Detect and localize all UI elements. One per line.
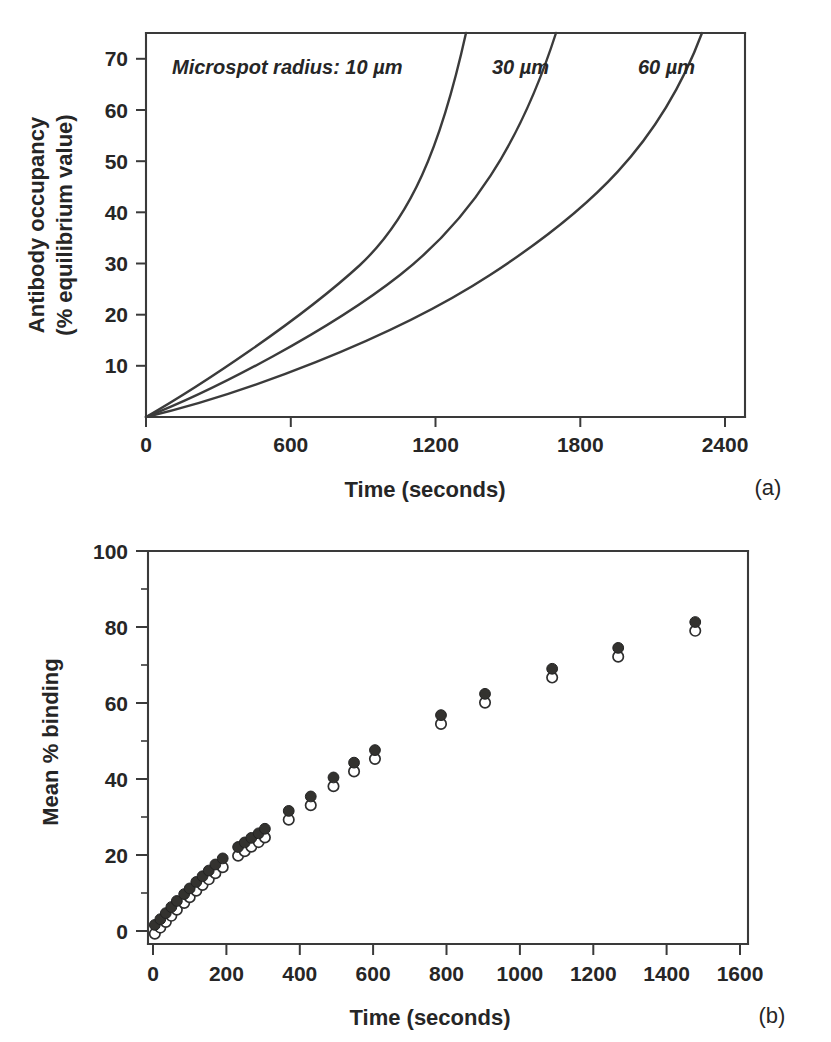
y-ticklabel-30: 30: [105, 252, 128, 275]
panel-a-y-ticklabels: 10 20 30 40 50 60 70: [105, 47, 128, 377]
panel-a-tag: (a): [755, 475, 782, 500]
figure-container: 10 20 30 40 50 60 70 0 600 1200 1800: [0, 0, 831, 1042]
x-ticklabel-1200: 1200: [570, 962, 617, 985]
panel-b-svg: 100 80 60 40 20 0 0 200: [0, 520, 831, 1042]
x-ticklabel-1000: 1000: [497, 962, 544, 985]
panel-b-axes: [148, 551, 748, 944]
x-ticklabel-1400: 1400: [643, 962, 690, 985]
curve-30um: [146, 33, 556, 417]
y-ticklabel-50: 50: [105, 150, 128, 173]
data-point-filled: [370, 745, 381, 756]
y-ticklabel-60: 60: [105, 692, 128, 715]
curve-60um: [146, 33, 702, 417]
panel-a: 10 20 30 40 50 60 70 0 600 1200 1800: [0, 0, 831, 520]
panel-a-x-ticklabels: 0 600 1200 1800 2400: [140, 433, 748, 456]
y-ticklabel-40: 40: [105, 768, 128, 791]
x-ticklabel-600: 600: [273, 433, 308, 456]
data-point-filled: [260, 823, 271, 834]
y-ticklabel-80: 80: [105, 616, 128, 639]
x-ticklabel-2400: 2400: [702, 433, 749, 456]
panel-a-x-ticks: [146, 417, 725, 427]
panel-b-x-ticks: [153, 944, 740, 955]
data-point-filled: [328, 772, 339, 783]
data-point-filled: [217, 853, 228, 864]
data-point-filled: [283, 806, 294, 817]
x-ticklabel-400: 400: [282, 962, 317, 985]
x-ticklabel-1200: 1200: [412, 433, 459, 456]
y-ticklabel-20: 20: [105, 844, 128, 867]
data-point-filled: [690, 617, 701, 628]
panel-b-yaxis-title: Mean % binding: [38, 658, 63, 825]
y-ticklabel-20: 20: [105, 303, 128, 326]
x-ticklabel-1600: 1600: [717, 962, 764, 985]
x-ticklabel-1800: 1800: [557, 433, 604, 456]
panel-a-xaxis-title: Time (seconds): [345, 477, 506, 502]
panel-b-y-ticks: [136, 551, 148, 931]
y-ticklabel-70: 70: [105, 47, 128, 70]
y-ticklabel-0: 0: [116, 920, 128, 943]
y-ticklabel-60: 60: [105, 99, 128, 122]
data-point-filled: [613, 642, 624, 653]
data-point-filled: [547, 663, 558, 674]
data-point-filled: [305, 791, 316, 802]
x-ticklabel-600: 600: [356, 962, 391, 985]
panel-b-y-ticklabels: 100 80 60 40 20 0: [93, 540, 128, 943]
panel-a-yaxis-title-line2: (% equilibrium value): [52, 114, 77, 335]
annotation-30um: 30 µm: [492, 56, 549, 78]
annotation-microspot-radius-10um: Microspot radius: 10 µm: [172, 56, 402, 78]
panel-a-curves: [146, 33, 702, 417]
y-ticklabel-40: 40: [105, 201, 128, 224]
panel-b-open-circle-series: [150, 626, 701, 939]
annotation-60um: 60 µm: [638, 56, 695, 78]
panel-a-annotations: Microspot radius: 10 µm 30 µm 60 µm: [172, 56, 695, 78]
panel-b-x-ticklabels: 0 200 400 600 800 1000 1200 1400 1600: [147, 962, 763, 985]
x-ticklabel-800: 800: [429, 962, 464, 985]
data-point-filled: [349, 757, 360, 768]
curve-10um: [146, 33, 466, 417]
panel-b: 100 80 60 40 20 0 0 200: [0, 520, 831, 1042]
data-point-filled: [480, 688, 491, 699]
panel-a-yaxis-title-line1: Antibody occupancy: [24, 116, 49, 333]
x-ticklabel-200: 200: [209, 962, 244, 985]
panel-b-tag: (b): [759, 1003, 786, 1028]
x-ticklabel-0: 0: [147, 962, 159, 985]
data-point-filled: [436, 710, 447, 721]
y-ticklabel-10: 10: [105, 354, 128, 377]
panel-a-y-ticks: [136, 59, 146, 366]
y-ticklabel-100: 100: [93, 540, 128, 563]
panel-a-svg: 10 20 30 40 50 60 70 0 600 1200 1800: [0, 0, 831, 520]
x-ticklabel-0: 0: [140, 433, 152, 456]
panel-b-filled-marker-series: [149, 617, 700, 931]
panel-b-xaxis-title: Time (seconds): [350, 1005, 511, 1030]
